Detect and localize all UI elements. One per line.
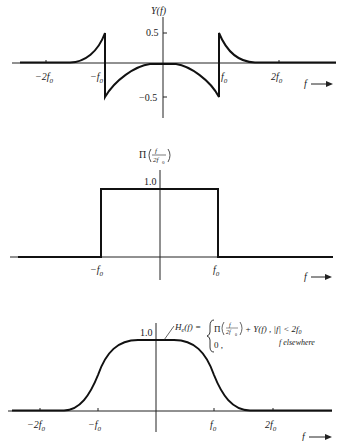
svg-text:Π: Π — [139, 149, 146, 160]
xtick-minus-f0: −f0 — [90, 71, 104, 85]
x-axis-label: f — [304, 78, 308, 89]
panel-rect: Π f 2f 0 1.0 −f0 f0 f — [10, 147, 333, 282]
equation-annotation: He(f) = Π f 2f 0 + Y(f) , |f| < 2f0 0 , … — [164, 320, 315, 352]
y-of-f-curve — [20, 33, 336, 97]
xtick-minus-2f0: −2f0 — [27, 419, 46, 433]
xtick-minus-2f0: −2f0 — [35, 71, 54, 85]
panel-he-of-f: 1.0 −2f0 −f0 f0 2f0 f He(f) = Π f 2f 0 +… — [8, 320, 332, 441]
svg-text:+ Y(f) , |f| < 2f0: + Y(f) , |f| < 2f0 — [245, 324, 302, 335]
svg-text:f: f — [229, 322, 232, 328]
svg-text:0: 0 — [162, 160, 165, 165]
y-axis-label: Y(f) — [151, 5, 167, 17]
xtick-f0: f0 — [221, 71, 228, 85]
xtick-f0: f0 — [210, 419, 217, 433]
svg-text:2f: 2f — [226, 329, 232, 335]
xtick-f0: f0 — [213, 264, 220, 278]
panel-y-of-f: Y(f) 0.5 −0.5 −2f0 −f0 f0 2f0 f — [12, 5, 336, 118]
svg-text:2f: 2f — [153, 156, 160, 164]
brace-icon — [207, 320, 214, 352]
svg-text:He(f) =: He(f) = — [174, 322, 201, 333]
y-axis-label: Π f 2f 0 — [139, 147, 170, 165]
xtick-minus-f0: −f0 — [88, 419, 102, 433]
rect-curve — [18, 189, 333, 257]
svg-text:f: f — [155, 147, 158, 155]
x-axis-label: f — [302, 431, 306, 441]
ytick-1.0: 1.0 — [140, 327, 153, 338]
figure-canvas: Y(f) 0.5 −0.5 −2f0 −f0 f0 2f0 f Π f 2f 0… — [0, 0, 344, 441]
xtick-2f0: 2f0 — [265, 419, 277, 433]
svg-text:0: 0 — [235, 332, 237, 337]
svg-text:0 ,: 0 , — [214, 340, 223, 350]
svg-text:Π: Π — [214, 324, 221, 334]
ytick-1.0: 1.0 — [144, 176, 157, 187]
svg-text:f elsewhere: f elsewhere — [279, 338, 315, 347]
leader-line — [164, 326, 174, 340]
he-of-f-curve — [12, 340, 332, 411]
xtick-2f0: 2f0 — [271, 71, 283, 85]
ytick-0.5: 0.5 — [146, 27, 159, 38]
ytick-neg-0.5: −0.5 — [139, 92, 157, 103]
xtick-minus-f0: −f0 — [90, 264, 104, 278]
x-axis-label: f — [304, 271, 308, 282]
